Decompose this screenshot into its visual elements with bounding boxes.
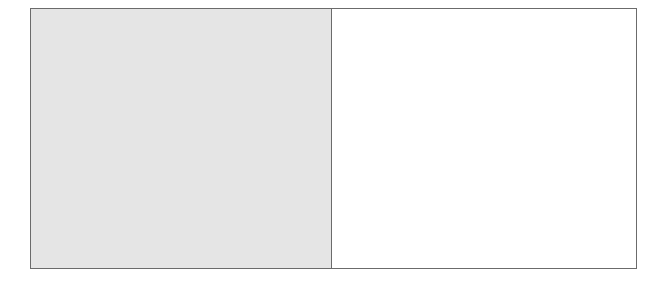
shaded-left-panel [31,9,332,268]
split-rectangle [30,8,637,269]
unshaded-right-panel [332,9,636,268]
